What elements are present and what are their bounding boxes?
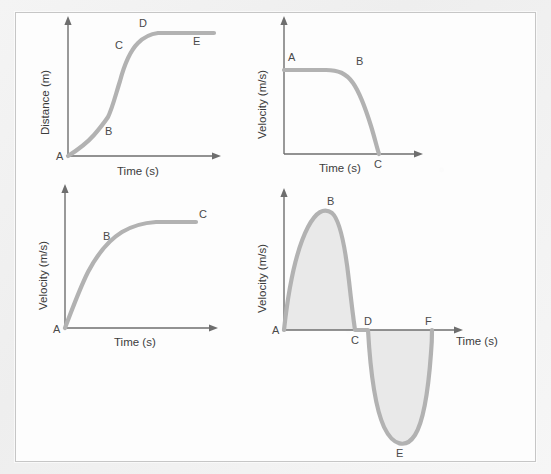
- graph-2-y-axis-title: Velocity (m/s): [256, 70, 268, 139]
- graph-1-label-e: E: [193, 35, 200, 47]
- graph-4-y-axis-arrow: [280, 188, 287, 197]
- graph-4-label-b: B: [327, 195, 334, 207]
- graph-1-x-axis-arrow: [212, 152, 221, 159]
- graph-4-label-f: F: [425, 315, 432, 327]
- graph-3-label-c: C: [199, 208, 207, 220]
- graph-4-y-axis-title: Velocity (m/s): [256, 244, 268, 313]
- graph-3: A B C Time (s) Velocity (m/s): [37, 184, 218, 348]
- graph-4-label-c: C: [351, 334, 359, 346]
- graph-1-label-d: D: [139, 17, 147, 29]
- graph-3-y-axis-title: Velocity (m/s): [37, 241, 49, 310]
- graph-2-y-axis-arrow: [280, 16, 287, 25]
- graph-1-label-a: A: [56, 150, 64, 162]
- graph-1-y-axis-arrow: [64, 16, 71, 25]
- graph-3-label-a: A: [53, 323, 61, 335]
- graph-3-curve: [65, 222, 196, 328]
- graph-1: A B C D E Time (s) Distance (m): [39, 16, 221, 177]
- graph-4-x-axis-title: Time (s): [456, 335, 498, 347]
- motion-graphs-figure: A B C D E Time (s) Distance (m) A B C Ti…: [16, 13, 535, 461]
- page-background: A B C D E Time (s) Distance (m) A B C Ti…: [0, 0, 551, 474]
- graph-4-x-axis-arrow: [454, 326, 463, 333]
- graph-4-negative-area: [368, 330, 432, 444]
- graph-1-y-axis-title: Distance (m): [39, 70, 51, 135]
- graph-2-label-b: B: [356, 55, 363, 67]
- figure-frame: A B C D E Time (s) Distance (m) A B C Ti…: [15, 12, 536, 462]
- graph-3-label-b: B: [103, 230, 110, 242]
- graph-4-label-d: D: [364, 315, 372, 327]
- graph-2-label-c: C: [374, 158, 382, 170]
- graph-3-y-axis-arrow: [61, 184, 68, 193]
- graph-4: A B C D E F Time (s) Velocity (m/s): [256, 188, 498, 459]
- graph-1-label-c: C: [115, 39, 123, 51]
- graph-3-x-axis-title: Time (s): [114, 336, 156, 348]
- graph-2: A B C Time (s) Velocity (m/s): [256, 16, 423, 174]
- graph-2-x-axis-title: Time (s): [319, 162, 361, 174]
- graph-1-label-b: B: [105, 125, 112, 137]
- graph-1-x-axis-title: Time (s): [117, 165, 159, 177]
- graph-2-label-a: A: [288, 51, 296, 63]
- graph-2-curve: [284, 70, 379, 154]
- graph-4-label-e: E: [396, 447, 403, 459]
- graph-1-curve: [68, 33, 214, 156]
- graph-3-x-axis-arrow: [209, 324, 218, 331]
- graph-4-label-a: A: [272, 324, 280, 336]
- graph-2-x-axis-arrow: [414, 150, 423, 157]
